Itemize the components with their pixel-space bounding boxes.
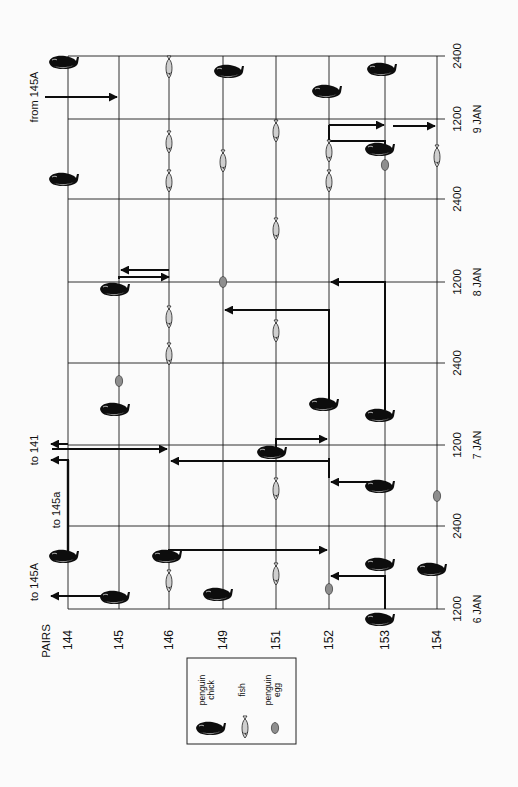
grid-lines bbox=[68, 56, 445, 609]
transfer-arrow bbox=[119, 277, 169, 279]
pair-label-146: 146 bbox=[162, 630, 176, 650]
fish-icon bbox=[326, 140, 332, 162]
fish-icon bbox=[273, 218, 279, 240]
transfer-arrows bbox=[45, 97, 435, 609]
fish-icon bbox=[434, 145, 440, 167]
pair-label-152: 152 bbox=[322, 630, 336, 650]
fish-icon bbox=[166, 170, 172, 192]
penguin-chick-icon bbox=[312, 85, 342, 98]
fish-icon bbox=[273, 563, 279, 585]
legend-fish-icon bbox=[242, 716, 248, 738]
fish-icon bbox=[166, 131, 172, 153]
fish-icon bbox=[166, 56, 172, 78]
fish-icon bbox=[273, 320, 279, 342]
penguin-chick-icon bbox=[100, 591, 130, 604]
penguin-chick-icon bbox=[365, 143, 395, 156]
time-label: 2400 bbox=[451, 186, 463, 212]
penguin-egg-icon bbox=[219, 277, 226, 288]
penguin-chick-icon bbox=[214, 65, 244, 78]
penguin-chick-icon bbox=[49, 56, 79, 69]
penguin-chick-icon bbox=[49, 550, 79, 563]
fish-icon bbox=[273, 478, 279, 500]
penguin-chick-icon bbox=[203, 588, 233, 601]
fish-icon bbox=[326, 170, 332, 192]
penguin-chick-icon bbox=[152, 550, 182, 563]
fish-icon bbox=[166, 343, 172, 365]
penguin-transfer-diagram: 144145146149151152153154PAIRS240012009 J… bbox=[0, 0, 518, 787]
penguin-chick-icon bbox=[257, 446, 287, 459]
pair-label-149: 149 bbox=[216, 630, 230, 650]
pair-label-145: 145 bbox=[112, 630, 126, 650]
date-label: 6 JAN bbox=[471, 595, 483, 624]
transfer-arrow bbox=[331, 282, 385, 410]
time-label: 1200 bbox=[451, 432, 463, 458]
penguin-chick-icon bbox=[365, 558, 395, 571]
penguin-chick-icon bbox=[367, 63, 397, 76]
penguin-chick-icon bbox=[365, 409, 395, 422]
legend-egg-icon bbox=[271, 723, 278, 734]
penguin-egg-icon bbox=[325, 584, 332, 595]
destination-annotation: to 141 bbox=[28, 435, 40, 466]
date-label: 7 JAN bbox=[471, 431, 483, 460]
time-label: 1200 bbox=[451, 596, 463, 622]
time-label: 2400 bbox=[451, 350, 463, 376]
diagram-canvas: 144145146149151152153154PAIRS240012009 J… bbox=[0, 0, 518, 787]
transfer-arrow bbox=[169, 550, 327, 556]
penguin-chick-icon bbox=[417, 563, 447, 576]
penguin-egg-icon bbox=[115, 376, 122, 387]
time-label: 1200 bbox=[451, 269, 463, 295]
penguin-chick-icon bbox=[365, 613, 395, 626]
destination-annotation: to 145a bbox=[50, 491, 62, 529]
destination-annotation: from 145A bbox=[28, 71, 40, 122]
date-label: 8 JAN bbox=[471, 268, 483, 297]
penguin-egg-icon bbox=[381, 160, 388, 171]
pair-label-144: 144 bbox=[61, 630, 75, 650]
legend-chick-icon bbox=[196, 722, 226, 735]
symbols-layer bbox=[49, 56, 447, 626]
transfer-arrow bbox=[171, 458, 329, 461]
fish-icon bbox=[166, 306, 172, 328]
transfer-arrow bbox=[331, 576, 385, 609]
penguin-chick-icon bbox=[49, 173, 79, 186]
fish-icon bbox=[166, 570, 172, 592]
legend-label: fish bbox=[237, 683, 247, 697]
penguin-chick-icon bbox=[100, 403, 130, 416]
legend: penguinchickfishpenguinegg bbox=[187, 658, 296, 744]
pair-label-153: 153 bbox=[378, 630, 392, 650]
penguin-chick-icon bbox=[365, 480, 395, 493]
pair-label-151: 151 bbox=[269, 630, 283, 650]
fish-icon bbox=[273, 120, 279, 142]
destination-annotation: to 145A bbox=[28, 562, 40, 601]
pair-label-154: 154 bbox=[430, 630, 444, 650]
pairs-header: PAIRS bbox=[40, 624, 52, 658]
time-label: 1200 bbox=[451, 106, 463, 132]
date-label: 9 JAN bbox=[471, 105, 483, 134]
penguin-chick-icon bbox=[309, 398, 339, 411]
legend-label: egg bbox=[272, 683, 282, 697]
legend-label: chick bbox=[206, 680, 216, 700]
penguin-chick-icon bbox=[100, 283, 130, 296]
fish-icon bbox=[220, 150, 226, 172]
time-label: 2400 bbox=[451, 513, 463, 539]
penguin-egg-icon bbox=[433, 491, 440, 502]
axis-labels: 144145146149151152153154PAIRS240012009 J… bbox=[28, 43, 483, 658]
time-label: 2400 bbox=[451, 43, 463, 69]
